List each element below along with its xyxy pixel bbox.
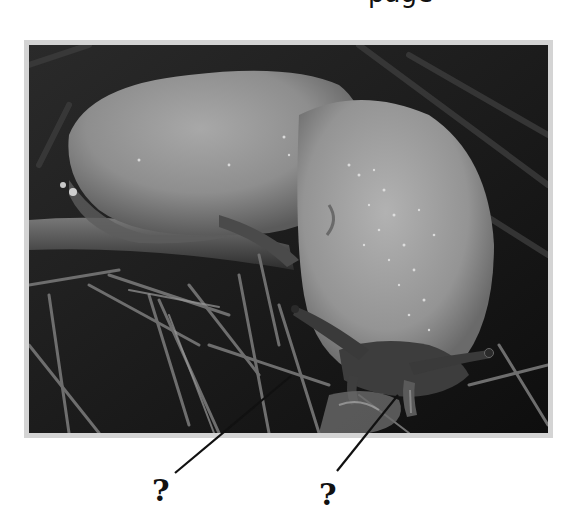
label-question-mark-1: ? (152, 476, 170, 506)
cut-off-heading: page (0, 0, 576, 8)
photo-frame (24, 40, 553, 438)
label-question-mark-2: ? (319, 480, 337, 510)
slug-photo (29, 45, 548, 433)
left-eye (291, 305, 299, 313)
cut-off-heading-text: page (368, 0, 433, 8)
right-eye (485, 349, 494, 358)
slug-illustration (29, 45, 548, 433)
